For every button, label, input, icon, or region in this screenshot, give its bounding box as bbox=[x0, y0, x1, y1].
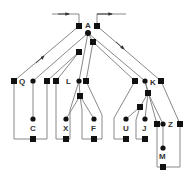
label-a: A bbox=[85, 21, 91, 30]
node-square bbox=[158, 78, 164, 84]
node-square bbox=[137, 104, 143, 110]
node-square bbox=[91, 136, 97, 142]
label-c: C bbox=[30, 124, 36, 133]
node-dot-x bbox=[63, 116, 68, 121]
node-dot-z bbox=[160, 121, 165, 126]
node-dot bbox=[30, 78, 35, 83]
arrow-icon bbox=[36, 56, 44, 63]
label-u: U bbox=[123, 124, 129, 133]
node-dot-m bbox=[160, 145, 165, 150]
node-square bbox=[76, 23, 82, 29]
left-input-edge bbox=[52, 14, 79, 26]
label-j: J bbox=[142, 124, 146, 133]
node-dot-j bbox=[142, 116, 147, 121]
right-input-edge bbox=[97, 14, 126, 26]
label-z: Z bbox=[168, 120, 173, 129]
node-square bbox=[94, 23, 100, 29]
node-square bbox=[83, 78, 89, 84]
node-square bbox=[154, 121, 160, 127]
label-x: X bbox=[63, 124, 69, 133]
label-q: Q bbox=[19, 77, 25, 86]
node-square bbox=[77, 93, 83, 99]
node-dot-c bbox=[30, 116, 35, 121]
node-dot bbox=[142, 78, 147, 83]
node-square bbox=[53, 78, 59, 84]
label-m: M bbox=[159, 152, 166, 161]
node-square bbox=[30, 136, 36, 142]
node-dot-f bbox=[91, 116, 96, 121]
node-square bbox=[44, 78, 50, 84]
node-dot bbox=[76, 78, 81, 83]
node-square bbox=[123, 136, 129, 142]
label-k: K bbox=[150, 78, 156, 87]
node-square bbox=[142, 136, 148, 142]
tree-diagram: A Q L K C X F U J Z M bbox=[0, 0, 191, 180]
node-square bbox=[76, 49, 82, 55]
node-square bbox=[177, 121, 183, 127]
arrow-icon bbox=[116, 42, 124, 49]
node-dot-u bbox=[123, 116, 128, 121]
label-f: F bbox=[91, 124, 96, 133]
node-square bbox=[11, 78, 17, 84]
node-square bbox=[132, 78, 138, 84]
label-l: L bbox=[66, 77, 71, 86]
node-square bbox=[90, 39, 96, 45]
edges bbox=[14, 26, 180, 167]
node-dot-a bbox=[85, 30, 91, 36]
node-square bbox=[63, 136, 69, 142]
node-square bbox=[160, 164, 166, 170]
node-square bbox=[145, 90, 151, 96]
